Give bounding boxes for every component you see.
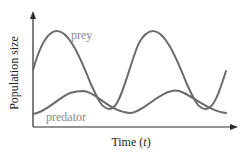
predator-label: predator	[46, 110, 86, 124]
x-axis-arrow-icon	[230, 124, 238, 130]
x-axis	[33, 124, 238, 130]
x-axis-title-suffix: )	[147, 135, 151, 149]
x-axis-title: Time (t)	[111, 135, 150, 149]
y-axis-arrow-icon	[30, 11, 36, 19]
x-axis-title-prefix: Time (	[111, 135, 143, 149]
prey-label: prey	[71, 28, 92, 42]
predator-prey-chart: prey predator Population size Time (t)	[0, 0, 245, 156]
y-axis-title: Population size	[7, 36, 21, 110]
